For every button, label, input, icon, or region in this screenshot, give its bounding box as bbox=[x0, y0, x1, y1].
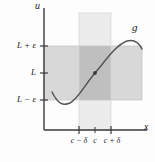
limit-point-marker bbox=[93, 71, 97, 75]
x-axis-label: x bbox=[144, 122, 148, 132]
y-tick-label-middle: L bbox=[0, 68, 36, 77]
x-tick-label-c-plus-delta: c + δ bbox=[97, 137, 127, 145]
y-axis-label: u bbox=[35, 1, 40, 11]
y-tick-label-lower: L − ε bbox=[0, 95, 36, 104]
curve-label-g: g bbox=[132, 22, 138, 33]
y-tick-label-upper: L + ε bbox=[0, 41, 36, 50]
epsilon-delta-limit-figure: u x g L + ε L L − ε c − δ c c + δ bbox=[0, 0, 155, 162]
